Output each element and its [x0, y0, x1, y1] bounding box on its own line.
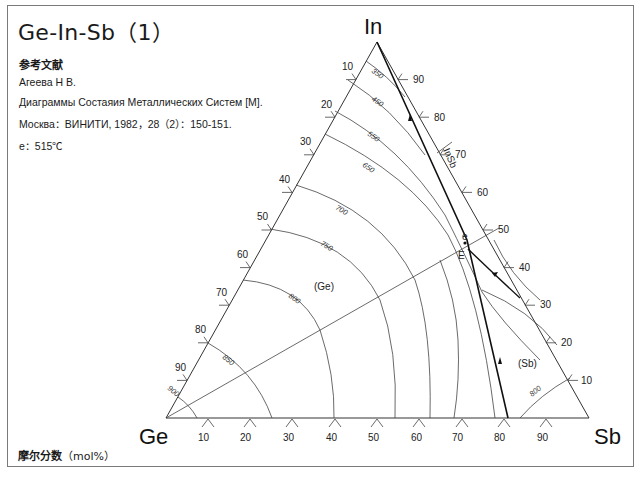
- isotherm-700: [296, 185, 430, 418]
- svg-text:20: 20: [561, 337, 573, 348]
- svg-text:30: 30: [540, 299, 552, 310]
- svg-text:60: 60: [237, 249, 249, 260]
- svg-text:80: 80: [195, 324, 207, 335]
- svg-text:750: 750: [319, 239, 335, 253]
- svg-text:50: 50: [368, 432, 380, 443]
- vertex-sb-label: Sb: [594, 424, 621, 449]
- isotherm-900: [178, 397, 197, 418]
- svg-text:30: 30: [300, 136, 312, 147]
- point-E-label: E: [458, 250, 465, 261]
- isotherm-450: [348, 80, 425, 155]
- svg-text:10: 10: [198, 432, 210, 443]
- svg-text:850: 850: [221, 352, 237, 367]
- vertex-ge-label: Ge: [139, 424, 168, 449]
- bottom-edge-ticks: [202, 419, 552, 427]
- isotherms: [178, 61, 570, 418]
- svg-text:30: 30: [283, 432, 295, 443]
- svg-text:350: 350: [370, 66, 386, 81]
- svg-text:60: 60: [477, 187, 489, 198]
- svg-text:90: 90: [537, 432, 549, 443]
- region-ge-label: (Ge): [314, 281, 334, 292]
- svg-text:70: 70: [216, 287, 228, 298]
- isotherm-labels: 350 450 550 650 700 750 800 850 900 800: [166, 66, 544, 399]
- point-e-label: e: [462, 231, 468, 242]
- svg-text:50: 50: [498, 224, 510, 235]
- svg-text:900: 900: [166, 384, 182, 399]
- svg-text:70: 70: [452, 432, 464, 443]
- svg-text:550: 550: [366, 129, 382, 144]
- svg-text:10: 10: [581, 375, 593, 386]
- svg-text:80: 80: [494, 432, 506, 443]
- svg-text:90: 90: [175, 362, 187, 373]
- svg-text:20: 20: [321, 99, 333, 110]
- arrow-up-icon: [498, 357, 502, 364]
- svg-text:80: 80: [434, 112, 446, 123]
- svg-text:800: 800: [528, 383, 544, 398]
- svg-text:700: 700: [334, 203, 350, 217]
- svg-text:90: 90: [413, 74, 425, 85]
- vertex-in-label: In: [364, 14, 382, 39]
- svg-text:800: 800: [287, 291, 303, 306]
- svg-text:20: 20: [240, 432, 252, 443]
- region-sb-label: (Sb): [518, 358, 537, 369]
- isotherm-800: [243, 280, 334, 418]
- bottom-edge-tick-labels: 10 20 30 40 50 60 70 80 90: [198, 432, 549, 443]
- right-edge-tick-labels: 90 80 70 60 50 40 30 20 10: [413, 74, 593, 386]
- ternary-diagram: Ge In Sb 10 20 30 40 50 60 70 80 90 9: [0, 0, 642, 477]
- svg-text:10: 10: [342, 61, 354, 72]
- isotherm-850: [208, 343, 272, 418]
- svg-text:50: 50: [257, 211, 269, 222]
- isotherm-650: [325, 134, 495, 418]
- isotherm-near-insb: [440, 260, 459, 418]
- svg-text:40: 40: [279, 174, 291, 185]
- svg-text:40: 40: [519, 262, 531, 273]
- svg-text:40: 40: [326, 432, 338, 443]
- ge-tie-line: [166, 228, 499, 418]
- svg-text:60: 60: [411, 432, 423, 443]
- isotherm-800-sb: [520, 378, 570, 418]
